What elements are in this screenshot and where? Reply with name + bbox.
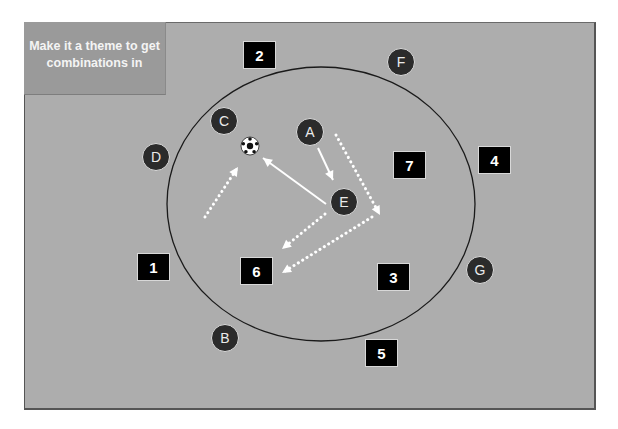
zone-box-5: 5 — [365, 339, 398, 367]
player-b: B — [211, 324, 239, 352]
zone-label: 6 — [252, 263, 260, 280]
zone-box-7: 7 — [393, 151, 426, 179]
zone-box-6: 6 — [240, 257, 273, 285]
zone-label: 4 — [490, 152, 498, 169]
zone-label: 2 — [255, 47, 263, 64]
run-right-to-6-arrow — [282, 217, 372, 273]
zone-label: 3 — [389, 269, 397, 286]
player-label: G — [475, 262, 486, 278]
player-label: A — [305, 124, 314, 140]
diagram-overlay — [0, 0, 618, 429]
arrowhead-icon — [263, 158, 273, 167]
player-e: E — [330, 188, 358, 216]
pass-e-to-ball-arrow — [263, 158, 326, 204]
zone-box-2: 2 — [243, 41, 276, 69]
player-label: E — [339, 194, 348, 210]
player-g: G — [466, 256, 494, 284]
player-label: B — [220, 330, 229, 346]
zone-label: 1 — [149, 259, 157, 276]
player-label: D — [151, 149, 161, 165]
zone-box-3: 3 — [377, 263, 410, 291]
arrowhead-icon — [282, 240, 292, 249]
player-f: F — [387, 48, 415, 76]
player-label: C — [219, 113, 229, 129]
player-label: F — [397, 54, 406, 70]
zone-label: 5 — [377, 345, 385, 362]
player-c: C — [210, 107, 238, 135]
zone-box-4: 4 — [478, 146, 511, 174]
zone-label: 7 — [405, 157, 413, 174]
zone-box-1: 1 — [137, 253, 170, 281]
player-a: A — [296, 118, 324, 146]
player-d: D — [142, 143, 170, 171]
ball-icon — [241, 137, 259, 155]
